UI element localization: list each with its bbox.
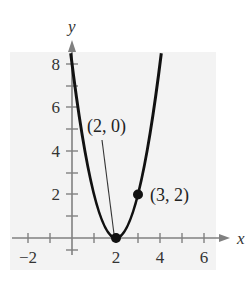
x-tick-label-neg2: −2 [19,248,37,267]
parabola-graph: −2 2 4 6 x 2 4 6 8 y (2, 0) (3, 2) [0,0,252,288]
y-tick-label-4: 4 [52,142,61,161]
point-label: (3, 2) [150,185,189,206]
x-tick-label-6: 6 [200,248,209,267]
point-3-2 [133,190,143,200]
x-tick-label-2: 2 [112,248,121,267]
y-axis-arrow-icon [68,40,76,52]
y-tick-label-8: 8 [52,55,61,74]
y-axis-label: y [66,17,76,36]
vertex-label: (2, 0) [87,116,126,137]
y-tick-label-2: 2 [52,185,61,204]
vertex-point [111,233,121,243]
x-axis-label: x [236,229,245,248]
x-axis-arrow-icon [219,234,230,242]
y-tick-label-6: 6 [52,98,61,117]
x-tick-label-4: 4 [156,248,165,267]
